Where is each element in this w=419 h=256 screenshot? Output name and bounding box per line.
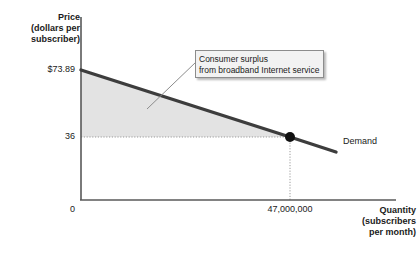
y-tick-label-equilibrium: 36 bbox=[27, 131, 75, 142]
x-axis-title-line2: (subscribers bbox=[362, 216, 416, 226]
x-axis-title-line1: Quantity bbox=[379, 205, 416, 215]
y-axis-title-line3: subscriber) bbox=[31, 34, 80, 44]
x-tick-label-equilibrium: 47,000,000 bbox=[245, 204, 335, 215]
y-axis-title-line1: Price bbox=[58, 12, 80, 22]
equilibrium-point-marker bbox=[285, 132, 295, 142]
consumer-surplus-callout-text: Consumer surplusfrom broadband Internet … bbox=[199, 54, 325, 76]
y-tick-label-intercept: $73.89 bbox=[27, 64, 75, 75]
x-axis-title: Quantity(subscribersper month) bbox=[336, 205, 416, 238]
y-axis-title-line2: (dollars per bbox=[31, 23, 80, 33]
origin-tick-label: 0 bbox=[55, 204, 75, 215]
consumer-surplus-chart: Price(dollars persubscriber) Quantity(su… bbox=[0, 0, 419, 256]
callout-line2: from broadband Internet service bbox=[199, 65, 319, 75]
demand-curve-label: Demand bbox=[343, 136, 377, 147]
callout-line1: Consumer surplus bbox=[199, 54, 268, 64]
y-axis-title: Price(dollars persubscriber) bbox=[0, 12, 80, 45]
x-axis-title-line3: per month) bbox=[369, 227, 416, 237]
